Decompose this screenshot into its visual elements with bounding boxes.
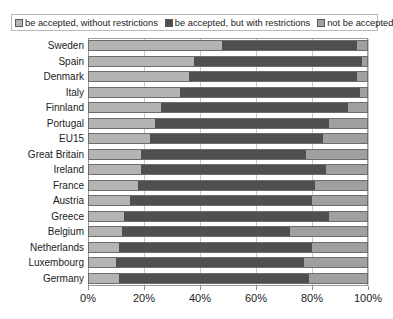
y-axis-label: Italy <box>0 87 84 98</box>
gridline-100 <box>368 39 369 285</box>
bar-segment-1 <box>119 242 312 253</box>
bar-segment-2 <box>360 87 368 98</box>
legend-swatch-icon <box>165 19 173 27</box>
bar-segment-2 <box>326 164 368 175</box>
bar-segment-2 <box>357 40 368 51</box>
bar-row <box>88 118 368 129</box>
bar-segment-2 <box>315 180 368 191</box>
bar-segment-0 <box>88 56 194 67</box>
bar-segment-1 <box>189 71 357 82</box>
legend-item-1[interactable]: be accepted, but with restrictions <box>165 18 310 28</box>
y-axis-label: Ireland <box>0 164 84 175</box>
bar-row <box>88 180 368 191</box>
x-axis-label: 20% <box>133 292 155 304</box>
bar-row <box>88 257 368 268</box>
bar-segment-1 <box>150 133 324 144</box>
bar-segment-2 <box>348 102 368 113</box>
bar-row <box>88 133 368 144</box>
x-axis-labels: 0%20%40%60%80%100% <box>88 292 368 308</box>
y-axis-label: France <box>0 180 84 191</box>
bar-row <box>88 71 368 82</box>
y-axis-label: Netherlands <box>0 242 84 253</box>
bars-layer <box>88 38 368 286</box>
bar-row <box>88 40 368 51</box>
bar-segment-2 <box>306 149 368 160</box>
bar-segment-2 <box>357 71 368 82</box>
bar-segment-1 <box>194 56 362 67</box>
bar-segment-1 <box>119 273 309 284</box>
stacked-bar-chart: be accepted, without restrictionsbe acce… <box>0 0 393 319</box>
bar-segment-1 <box>155 118 329 129</box>
bar-segment-1 <box>122 226 290 237</box>
bar-segment-1 <box>161 102 349 113</box>
bar-segment-1 <box>138 180 314 191</box>
bar-segment-1 <box>141 149 306 160</box>
x-axis-label: 0% <box>80 292 96 304</box>
bar-segment-0 <box>88 71 189 82</box>
bar-segment-0 <box>88 180 138 191</box>
bar-segment-1 <box>180 87 359 98</box>
bar-segment-0 <box>88 273 119 284</box>
y-axis-label: Belgium <box>0 226 84 237</box>
y-axis-label: EU15 <box>0 133 84 144</box>
x-axis-tick <box>368 286 369 290</box>
y-axis-label: Finnland <box>0 102 84 113</box>
y-axis-labels: SwedenSpainDenmarkItalyFinnlandPortugalE… <box>0 38 84 286</box>
bar-row <box>88 195 368 206</box>
y-axis-label: Spain <box>0 56 84 67</box>
bar-segment-2 <box>323 133 368 144</box>
bar-segment-1 <box>124 211 328 222</box>
bar-segment-0 <box>88 242 119 253</box>
bar-segment-1 <box>130 195 312 206</box>
legend-swatch-icon <box>15 19 23 27</box>
y-axis-label: Austria <box>0 195 84 206</box>
y-axis-label: Portugal <box>0 118 84 129</box>
x-axis-label: 80% <box>301 292 323 304</box>
y-axis-label: Luxembourg <box>0 257 84 268</box>
x-axis-tick <box>312 286 313 290</box>
legend-label: be accepted, but with restrictions <box>175 18 310 28</box>
x-axis-tick <box>200 286 201 290</box>
bar-segment-0 <box>88 149 141 160</box>
bar-segment-2 <box>362 56 368 67</box>
bar-segment-2 <box>304 257 368 268</box>
bar-segment-0 <box>88 102 161 113</box>
bar-segment-0 <box>88 211 124 222</box>
legend-item-2[interactable]: not be accepted <box>317 18 393 28</box>
bar-row <box>88 56 368 67</box>
bar-segment-1 <box>222 40 356 51</box>
bar-segment-1 <box>116 257 304 268</box>
bar-segment-0 <box>88 257 116 268</box>
chart-legend: be accepted, without restrictionsbe acce… <box>11 14 378 31</box>
y-axis-label: Denmark <box>0 71 84 82</box>
x-axis-label: 40% <box>189 292 211 304</box>
bar-segment-0 <box>88 195 130 206</box>
x-axis-tick <box>256 286 257 290</box>
legend-item-0[interactable]: be accepted, without restrictions <box>15 18 158 28</box>
bar-row <box>88 149 368 160</box>
bar-row <box>88 226 368 237</box>
bar-segment-2 <box>312 242 368 253</box>
x-axis-tick <box>144 286 145 290</box>
y-axis-label: Germany <box>0 273 84 284</box>
bar-segment-2 <box>312 195 368 206</box>
bar-segment-2 <box>290 226 368 237</box>
bar-segment-2 <box>309 273 368 284</box>
legend-label: not be accepted <box>327 18 393 28</box>
bar-row <box>88 242 368 253</box>
bar-segment-0 <box>88 133 150 144</box>
legend-swatch-icon <box>317 19 325 27</box>
bar-row <box>88 273 368 284</box>
y-axis-label: Great Britain <box>0 149 84 160</box>
bar-segment-0 <box>88 226 122 237</box>
x-axis-label: 60% <box>245 292 267 304</box>
y-axis-label: Sweden <box>0 40 84 51</box>
bar-row <box>88 211 368 222</box>
bar-row <box>88 87 368 98</box>
bar-row <box>88 102 368 113</box>
x-axis-tick <box>88 286 89 290</box>
bar-row <box>88 164 368 175</box>
bar-segment-0 <box>88 118 155 129</box>
bar-segment-2 <box>329 211 368 222</box>
bar-segment-0 <box>88 164 141 175</box>
